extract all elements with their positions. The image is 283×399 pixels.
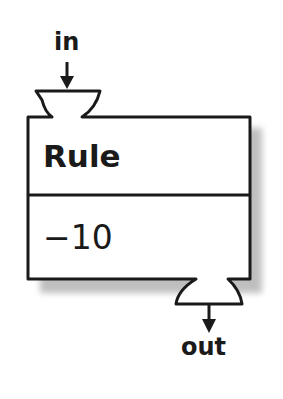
- output-arrow-icon: [202, 304, 216, 333]
- block-title: Rule: [43, 138, 121, 174]
- input-arrow-icon: [60, 62, 74, 89]
- input-label: in: [54, 28, 79, 56]
- output-label: out: [181, 333, 226, 361]
- block-value: −10: [43, 218, 113, 257]
- rule-block-diagram: [0, 0, 283, 399]
- block-outline: [28, 91, 250, 304]
